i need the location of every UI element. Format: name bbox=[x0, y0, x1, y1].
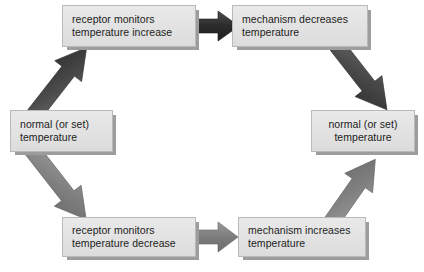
node-normal-set-temperature-right[interactable]: normal (or set) temperature bbox=[311, 110, 415, 152]
node-line-1: normal (or set) bbox=[312, 118, 414, 132]
node-line-2: temperature bbox=[239, 237, 365, 251]
node-line-2: temperature bbox=[312, 131, 414, 145]
node-line-1: normal (or set) bbox=[11, 118, 112, 132]
node-line-1: mechanism increases bbox=[239, 224, 365, 238]
node-mechanism-decreases-temperature[interactable]: mechanism decreases temperature bbox=[232, 5, 368, 47]
node-line-1: mechanism decreases bbox=[233, 13, 367, 27]
arrow-bottom-left-to-bottom-right bbox=[196, 222, 238, 252]
node-line-2: temperature decrease bbox=[63, 237, 195, 251]
node-receptor-monitors-temperature-decrease[interactable]: receptor monitors temperature decrease bbox=[62, 217, 196, 257]
node-mechanism-increases-temperature[interactable]: mechanism increases temperature bbox=[238, 217, 366, 257]
node-line-2: temperature increase bbox=[63, 26, 195, 40]
node-line-1: receptor monitors bbox=[63, 13, 195, 27]
node-line-1: receptor monitors bbox=[63, 224, 195, 238]
node-line-2: temperature bbox=[233, 26, 367, 40]
homeostasis-feedback-diagram: receptor monitors temperature increase m… bbox=[0, 0, 424, 272]
node-receptor-monitors-temperature-increase[interactable]: receptor monitors temperature increase bbox=[62, 5, 196, 47]
node-line-2: temperature bbox=[11, 131, 112, 145]
node-normal-set-temperature-left[interactable]: normal (or set) temperature bbox=[10, 110, 113, 152]
